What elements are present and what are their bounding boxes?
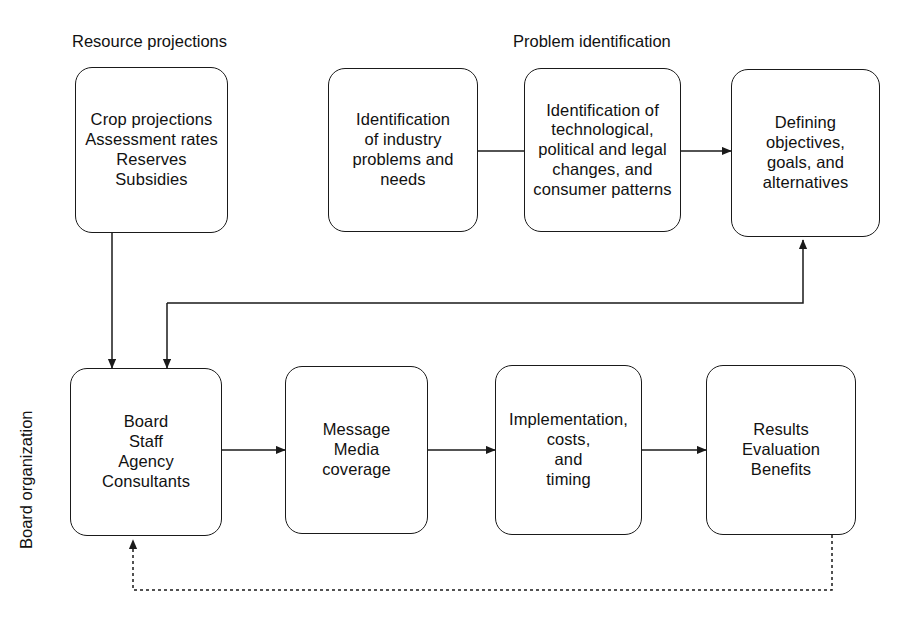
node-industry-problems[interactable]: Identification of industry problems and … [328,68,478,232]
connector-results-to-board-feedback [133,535,832,590]
group-label-problem-identification: Problem identification [513,32,671,51]
node-implementation-costs-timing[interactable]: Implementation, costs, and timing [495,365,642,535]
node-resource-projections-label: Crop projections Assessment rates Reserv… [79,110,224,189]
node-industry-problems-label: Identification of industry problems and … [346,110,459,189]
node-message-media-coverage-label: Message Media coverage [316,420,397,479]
node-defining-objectives-label: Defining objectives, goals, and alternat… [757,113,855,192]
node-technological-changes-label: Identification of technological, politic… [527,101,677,200]
flowchart-canvas: Resource projections Problem identificat… [0,0,918,628]
node-results-evaluation-benefits-label: Results Evaluation Benefits [736,420,826,479]
group-label-resource-projections: Resource projections [72,32,227,51]
node-resource-projections[interactable]: Crop projections Assessment rates Reserv… [75,67,228,233]
node-defining-objectives[interactable]: Defining objectives, goals, and alternat… [731,69,880,237]
node-board-staff-agency-consultants[interactable]: Board Staff Agency Consultants [70,368,222,536]
node-results-evaluation-benefits[interactable]: Results Evaluation Benefits [706,365,856,535]
node-technological-changes[interactable]: Identification of technological, politic… [524,68,681,232]
node-message-media-coverage[interactable]: Message Media coverage [285,366,428,534]
group-label-board-organization: Board organization [17,410,36,549]
node-implementation-costs-timing-label: Implementation, costs, and timing [503,410,634,489]
node-board-staff-agency-consultants-label: Board Staff Agency Consultants [96,412,196,491]
connector-board-to-defining-feedback [167,240,803,303]
